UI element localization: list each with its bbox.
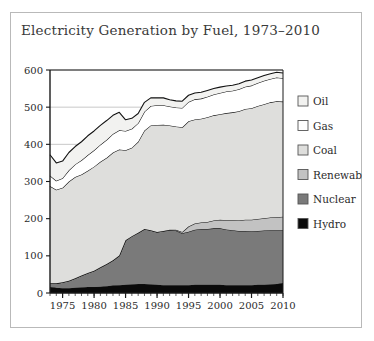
- legend-item-nuclear[interactable]: Nuclear: [298, 193, 357, 205]
- legend-label-hydro: Hydro: [313, 218, 346, 230]
- legend-label-gas: Gas: [313, 120, 333, 132]
- y-tick-label: 0: [37, 288, 43, 299]
- legend-item-renewables[interactable]: Renewables: [298, 169, 362, 181]
- x-tick-label: 1980: [81, 300, 106, 311]
- legend-item-gas[interactable]: Gas: [298, 120, 333, 132]
- legend-label-oil: Oil: [313, 95, 329, 107]
- y-tick-label: 600: [24, 65, 43, 76]
- legend-label-nuclear: Nuclear: [313, 193, 357, 205]
- y-tick-label: 200: [24, 213, 43, 224]
- legend-swatch-hydro: [298, 219, 308, 229]
- legend-item-oil[interactable]: Oil: [298, 95, 329, 107]
- legend-swatch-gas: [298, 121, 308, 131]
- y-tick-label: 300: [24, 176, 43, 187]
- legend-swatch-renewables: [298, 170, 308, 180]
- legend-swatch-coal: [298, 145, 308, 155]
- x-tick-label: 1995: [176, 300, 201, 311]
- x-tick-label: 2010: [270, 300, 295, 311]
- y-tick-label: 400: [24, 139, 43, 150]
- legend-swatch-nuclear: [298, 194, 308, 204]
- y-tick-label: 100: [24, 250, 43, 261]
- legend-swatch-oil: [298, 96, 308, 106]
- y-tick-label: 500: [24, 102, 43, 113]
- x-tick-label: 1990: [144, 300, 169, 311]
- x-tick-label: 1975: [50, 300, 75, 311]
- legend-item-hydro[interactable]: Hydro: [298, 218, 346, 230]
- legend-item-coal[interactable]: Coal: [298, 144, 338, 156]
- x-tick-label: 1985: [113, 300, 138, 311]
- x-tick-label: 2000: [207, 300, 232, 311]
- legend-label-coal: Coal: [313, 144, 338, 156]
- legend-label-renewables: Renewables: [313, 169, 362, 181]
- figure-container: Electricity Generation by Fuel, 1973–201…: [0, 0, 374, 341]
- x-tick-label: 2005: [239, 300, 264, 311]
- area-chart: 0100200300400500600197519801985199019952…: [10, 12, 362, 328]
